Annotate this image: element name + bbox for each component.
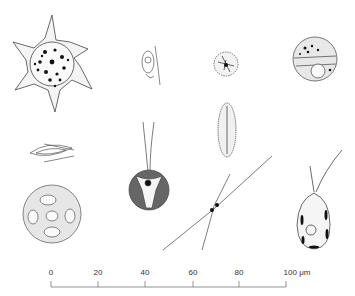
spiny-round-cell-drawing	[214, 52, 238, 76]
scale-tick-label: 40	[141, 268, 150, 277]
scale-tick-label: 80	[235, 268, 244, 277]
scale-bar	[51, 281, 286, 287]
star-colony-drawing	[13, 15, 92, 112]
small-flagellate-drawing	[142, 46, 160, 85]
colony-sphere-drawing	[23, 185, 81, 243]
diatom-drawing	[218, 103, 236, 157]
scale-tick-label: 0	[49, 268, 53, 277]
pear-flagellate-drawing	[297, 150, 342, 249]
scale-tick-label: 100 μm	[284, 268, 311, 277]
flagellated-round-cell-drawing	[129, 122, 169, 210]
spindle-cell-drawing	[30, 144, 74, 162]
scale-tick-label: 60	[189, 268, 198, 277]
specimen-plate	[0, 0, 355, 296]
divided-round-cell-drawing	[293, 37, 337, 81]
crossing-filament-drawing	[163, 156, 272, 250]
scale-tick-label: 20	[94, 268, 103, 277]
